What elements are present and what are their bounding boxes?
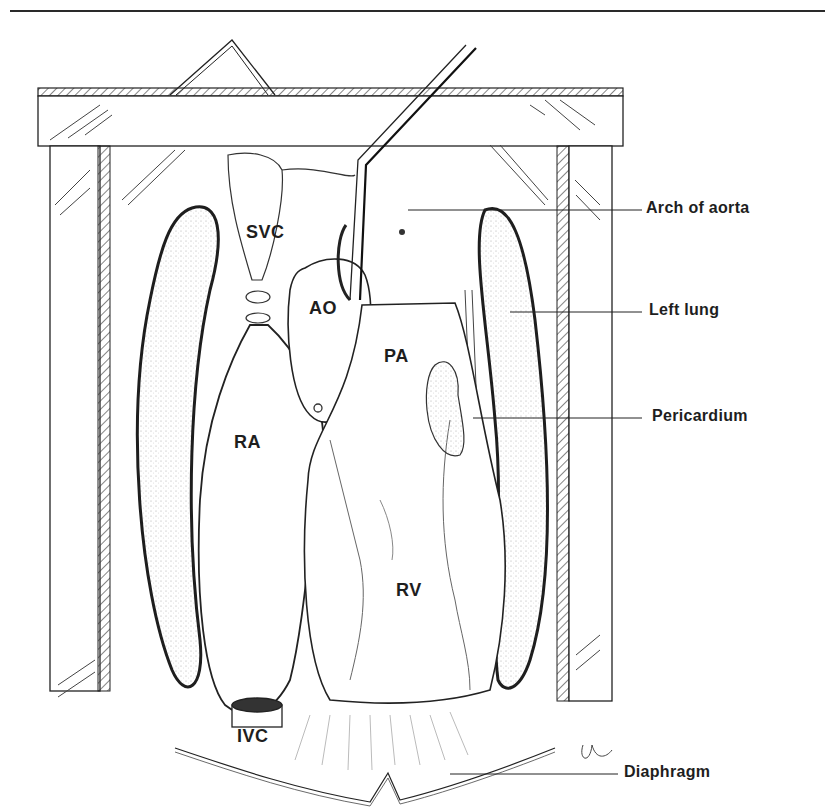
aortic-clamp bbox=[338, 45, 476, 300]
callout-diaphragm: Diaphragm bbox=[624, 763, 710, 781]
svc bbox=[228, 153, 282, 280]
heart-illustration bbox=[0, 0, 825, 811]
callout-pericardium: Pericardium bbox=[652, 407, 748, 425]
label-ao: AO bbox=[309, 298, 337, 319]
label-pa: PA bbox=[384, 346, 409, 367]
label-ivc: IVC bbox=[237, 726, 269, 747]
callout-arch-of-aorta: Arch of aorta bbox=[646, 199, 749, 217]
label-svc: SVC bbox=[246, 222, 285, 243]
callout-left-lung: Left lung bbox=[649, 301, 719, 319]
ivc-vessel bbox=[232, 698, 282, 727]
diaphragm-edge bbox=[175, 748, 555, 802]
label-rv: RV bbox=[396, 580, 422, 601]
label-ra: RA bbox=[234, 432, 261, 453]
